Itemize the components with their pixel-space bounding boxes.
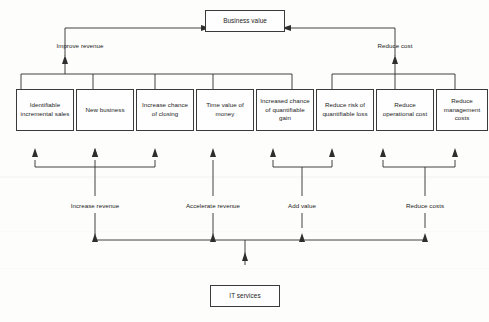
node-business-value[interactable]: Business value: [205, 10, 285, 32]
arrowhead-accelerate-revenue-up: [210, 233, 216, 242]
arrowhead-to-box-4: [210, 148, 216, 157]
caption-reduce-cost: Reduce cost: [360, 42, 430, 49]
bus-increase-revenue: [35, 160, 155, 167]
caption-improve-revenue: Improve revenue: [35, 42, 125, 49]
caption-reduce-costs: Reduce costs: [392, 202, 458, 209]
node-benefit-4[interactable]: Time value of money: [196, 89, 254, 131]
node-it-services[interactable]: IT services: [210, 285, 280, 307]
node-benefit-6[interactable]: Reduce risk of quantifiable loss: [316, 89, 374, 131]
arrowhead-to-box-2: [92, 148, 98, 157]
arrowhead-to-box-7: [380, 148, 386, 157]
bus-add-value: [273, 160, 332, 167]
arrowhead-add-value-up: [299, 233, 305, 242]
arrowhead-to-box-6: [329, 148, 335, 157]
caption-increase-revenue: Increase revenue: [55, 202, 135, 209]
node-benefit-7[interactable]: Reduce operational cost: [376, 89, 434, 131]
node-benefit-3[interactable]: Increase chance of closing: [136, 89, 194, 131]
arrowhead-improve-revenue: [62, 55, 68, 64]
scan-artifact-band: [0, 268, 489, 269]
scan-artifact-band: [0, 176, 489, 178]
arrowhead-increase-revenue-up: [92, 233, 98, 242]
arrowhead-to-box-1: [32, 148, 38, 157]
diagram-canvas: Business value Identifiable incremental …: [0, 0, 489, 322]
scan-artifact-band: [0, 231, 489, 232]
node-benefit-5[interactable]: Increased chance of quantifiable gain: [256, 89, 314, 131]
arrowhead-to-box-5: [270, 148, 276, 157]
node-benefit-1[interactable]: Identifiable incremental sales: [16, 89, 74, 131]
caption-add-value: Add value: [272, 202, 332, 209]
bus-reduce-costs: [383, 160, 455, 167]
node-benefit-2[interactable]: New business: [76, 89, 134, 131]
arrowhead-reduce-cost: [392, 55, 398, 64]
arrowhead-dup-guard: [92, 148, 98, 157]
arrowhead-to-box-8: [452, 148, 458, 157]
node-benefit-8[interactable]: Reduce management costs: [436, 89, 488, 131]
arrowhead-reduce-costs-up: [422, 233, 428, 242]
arrowhead-to-box-3: [152, 148, 158, 157]
arrowhead-it-services: [242, 252, 248, 261]
caption-accelerate-revenue: Accelerate revenue: [170, 202, 256, 209]
